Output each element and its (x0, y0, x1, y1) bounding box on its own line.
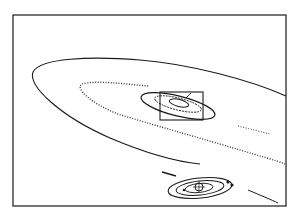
central-star-rays (193, 181, 205, 193)
planet-dot-right-1 (226, 180, 229, 183)
diagram-canvas (0, 0, 301, 219)
orbital-diagram (0, 0, 301, 219)
dotted-particle-band (80, 82, 285, 164)
dotted-particle-band-upper (238, 126, 270, 134)
planetary-system (167, 175, 233, 202)
connector-line (162, 172, 176, 176)
planet-dot-left (183, 189, 186, 192)
central-disk-core (168, 97, 189, 109)
inset-marker-tick (186, 93, 191, 98)
outer-orbit-lower-tail (248, 190, 278, 203)
planet-dot-right-2 (230, 183, 233, 186)
frame-border (13, 15, 286, 206)
